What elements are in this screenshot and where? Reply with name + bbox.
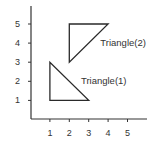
series-layer: Triangle(1)Triangle(2) bbox=[50, 24, 146, 100]
x-tick-label: 2 bbox=[67, 128, 72, 138]
y-tick-label: 2 bbox=[15, 76, 20, 86]
triangle-1-label: Triangle(1) bbox=[81, 75, 127, 86]
axes: 1234512345 bbox=[15, 6, 147, 138]
triangle-2-label: Triangle(2) bbox=[100, 37, 146, 48]
y-tick-label: 4 bbox=[15, 38, 20, 48]
x-tick-label: 4 bbox=[106, 128, 111, 138]
x-tick-label: 1 bbox=[47, 128, 52, 138]
x-tick-label: 3 bbox=[86, 128, 91, 138]
y-tick-label: 3 bbox=[15, 57, 20, 67]
triangle-plot: 1234512345 Triangle(1)Triangle(2) bbox=[0, 0, 160, 146]
y-tick-label: 1 bbox=[15, 95, 20, 105]
x-tick-label: 5 bbox=[125, 128, 130, 138]
y-tick-label: 5 bbox=[15, 19, 20, 29]
